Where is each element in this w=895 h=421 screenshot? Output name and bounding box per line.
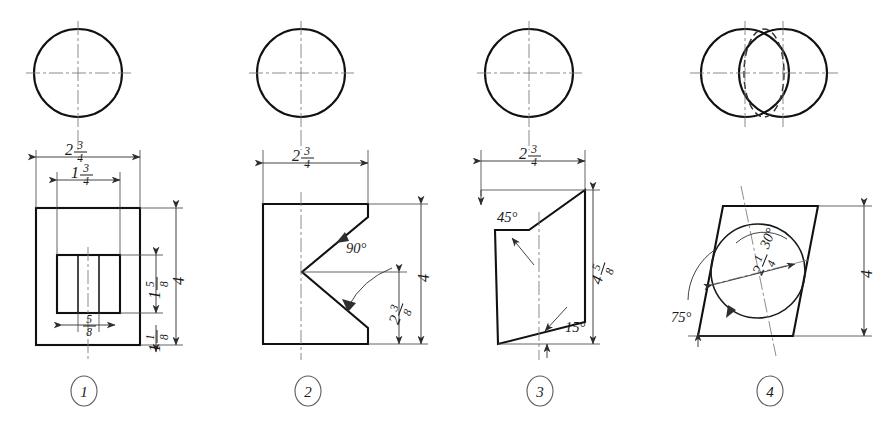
dim-whole: 4 <box>587 273 606 286</box>
dim-numerator: 5 <box>590 262 603 271</box>
dim-text-base-offset: 1 1 8 <box>144 330 170 352</box>
figure-number: 4 <box>766 384 774 400</box>
figure-number: 2 <box>304 384 312 400</box>
notched-block-outline <box>263 204 368 344</box>
dim-denominator: 4 <box>764 258 777 268</box>
figure-3-top-view <box>477 21 582 132</box>
dim-whole: 4 <box>170 277 187 285</box>
figure-4-top-view <box>690 21 838 128</box>
dim-numerator: 5 <box>144 281 156 287</box>
dim-text-slot-height: 1 5 8 <box>144 277 170 299</box>
dim-whole: 1 <box>71 164 79 181</box>
dim-numerator: 1 <box>144 334 156 340</box>
angle-arc <box>348 268 392 307</box>
dim-numerator: 3 <box>303 145 310 157</box>
dim-denominator: 4 <box>304 158 310 170</box>
dim-whole: 2 <box>519 145 527 162</box>
dim-whole: 2 <box>385 313 404 326</box>
dim-numerator: 3 <box>76 139 83 151</box>
figure-2-dimension-text: 2 3 4 4 2 3 8 90° <box>292 145 432 329</box>
engineering-drawing-canvas: 2 3 4 1 3 4 5 8 4 1 5 <box>0 0 895 421</box>
figure-1-dimension-text: 2 3 4 1 3 4 5 8 4 1 5 <box>65 139 187 352</box>
dim-text-slot-width: 5 8 <box>83 313 96 338</box>
dim-text-overall-height: 4 <box>858 270 875 278</box>
dim-text-overall-height: 4 5 8 <box>585 258 617 288</box>
dim-numerator: 3 <box>530 143 537 155</box>
angle-text-top-bevel: 45° <box>497 209 518 225</box>
angle-text-diameter: 30° <box>756 226 779 252</box>
dim-whole: 4 <box>858 270 875 278</box>
dim-whole: 1 <box>146 291 163 299</box>
dim-text-overall-width: 2 3 4 <box>519 143 541 168</box>
angle-text-bottom-bevel: 15° <box>565 319 586 335</box>
figure-1-balloon: 1 <box>71 376 97 406</box>
dim-whole: 2 <box>292 147 300 164</box>
dim-whole: 1 <box>146 344 163 352</box>
angle-text-slant: 75° <box>671 309 692 325</box>
figure-4-balloon: 4 <box>757 376 783 406</box>
dim-denominator: 8 <box>400 307 413 317</box>
dim-denominator: 8 <box>86 326 92 338</box>
figure-3-extension-lines <box>481 150 600 344</box>
dim-denominator: 4 <box>531 156 537 168</box>
figure-3-balloon: 3 <box>527 376 553 406</box>
figure-1-top-view <box>26 21 131 132</box>
figure-4-group: 4 2 1 4 75° 30° 4 <box>671 21 875 406</box>
dim-text-overall-height: 4 <box>415 274 432 282</box>
figure-number: 1 <box>80 384 88 400</box>
dim-denominator: 4 <box>83 175 89 187</box>
figure-3-dimension-text: 2 3 4 4 5 8 45° 15° <box>497 143 617 335</box>
leader-45deg <box>512 238 534 265</box>
dim-denominator: 8 <box>603 267 616 276</box>
drawing-sheet: 2 3 4 1 3 4 5 8 4 1 5 <box>0 0 895 421</box>
dim-text-overall-width: 2 3 4 <box>65 139 87 164</box>
dim-text-overall-width: 2 3 4 <box>292 145 314 170</box>
dim-numerator: 5 <box>86 313 92 325</box>
figure-1-extension-lines <box>36 150 183 345</box>
dim-denominator: 8 <box>158 281 170 287</box>
dim-whole: 4 <box>415 274 432 282</box>
figure-2-top-view <box>249 21 354 132</box>
angle-text-diameter-group: 30° <box>756 226 779 252</box>
figure-1-group: 2 3 4 1 3 4 5 8 4 1 5 <box>26 21 187 406</box>
dim-text-inner-width: 1 3 4 <box>71 162 93 187</box>
angle-arrow-lower <box>342 299 356 312</box>
dim-numerator: 1 <box>751 253 764 263</box>
dim-text-overall-height: 4 <box>170 277 187 285</box>
dim-numerator: 3 <box>82 162 89 174</box>
inner-slot-rectangle <box>57 255 120 313</box>
dim-whole: 2 <box>65 141 73 158</box>
figure-2-balloon: 2 <box>295 376 321 406</box>
figure-4-dimension-text: 4 2 1 4 75° 30° <box>671 226 875 325</box>
figure-3-group: 2 3 4 4 5 8 45° 15° 3 <box>477 21 617 406</box>
angle-text-notch: 90° <box>346 240 367 256</box>
dim-denominator: 8 <box>158 334 170 340</box>
figure-2-group: 2 3 4 4 2 3 8 90° 2 <box>249 21 432 406</box>
figure-number: 3 <box>535 384 544 400</box>
figure-4-extension-lines <box>688 206 872 336</box>
